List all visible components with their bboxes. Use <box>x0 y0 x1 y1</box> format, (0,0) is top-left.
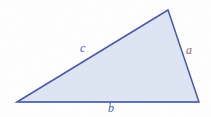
side-label-c: c <box>80 42 85 54</box>
side-label-a: a <box>186 44 192 56</box>
triangle-diagram <box>0 0 211 117</box>
paper-texture-overlay <box>0 0 211 117</box>
geometry-figure: c a b <box>0 0 211 117</box>
side-label-b: b <box>108 102 114 114</box>
